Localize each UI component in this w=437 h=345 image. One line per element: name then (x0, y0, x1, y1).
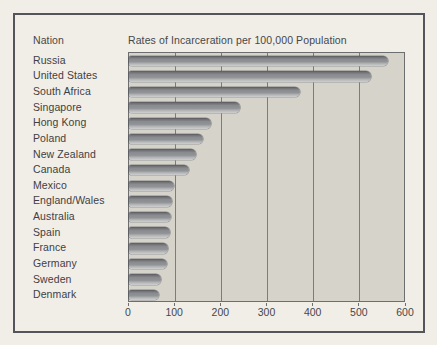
bar-mexico (129, 181, 174, 192)
bar-singapore (129, 102, 240, 113)
category-label-canada: Canada (33, 161, 125, 177)
x-tick-label-200: 200 (203, 306, 237, 318)
bar-south-africa (129, 87, 300, 98)
bar-russia (129, 56, 388, 67)
bar-united-states (129, 71, 371, 82)
gridline-400 (313, 53, 314, 301)
bar-canada (129, 165, 189, 176)
bar-new-zealand (129, 149, 196, 160)
category-label-new-zealand: New Zealand (33, 146, 125, 162)
x-tick-label-400: 400 (296, 306, 330, 318)
x-tick-label-100: 100 (157, 306, 191, 318)
category-label-mexico: Mexico (33, 177, 125, 193)
category-axis-title: Nation (33, 34, 64, 46)
category-label-south-africa: South Africa (33, 83, 125, 99)
chart-title: Rates of Incarceration per 100,000 Popul… (128, 34, 347, 46)
category-label-germany: Germany (33, 255, 125, 271)
plot-area (128, 52, 405, 302)
category-label-hong-kong: Hong Kong (33, 115, 125, 131)
bar-hong-kong (129, 118, 211, 129)
category-label-england-wales: England/Wales (33, 193, 125, 209)
category-label-denmark: Denmark (33, 286, 125, 302)
incarceration-chart-figure: Nation Rates of Incarceration per 100,00… (0, 0, 437, 345)
category-label-sweden: Sweden (33, 271, 125, 287)
x-tick-label-0: 0 (111, 306, 145, 318)
bar-sweden (129, 274, 161, 285)
category-label-singapore: Singapore (33, 99, 125, 115)
category-label-france: France (33, 240, 125, 256)
bar-germany (129, 259, 167, 270)
category-label-spain: Spain (33, 224, 125, 240)
bar-spain (129, 227, 170, 238)
bar-denmark (129, 290, 159, 301)
bar-australia (129, 212, 171, 223)
x-tick-label-300: 300 (250, 306, 284, 318)
bar-poland (129, 134, 203, 145)
category-label-poland: Poland (33, 130, 125, 146)
bar-england-wales (129, 196, 172, 207)
category-label-united-states: United States (33, 68, 125, 84)
x-tick-label-600: 600 (388, 306, 422, 318)
gridline-500 (359, 53, 360, 301)
category-label-russia: Russia (33, 52, 125, 68)
category-label-australia: Australia (33, 208, 125, 224)
bar-france (129, 243, 168, 254)
x-tick-label-500: 500 (342, 306, 376, 318)
